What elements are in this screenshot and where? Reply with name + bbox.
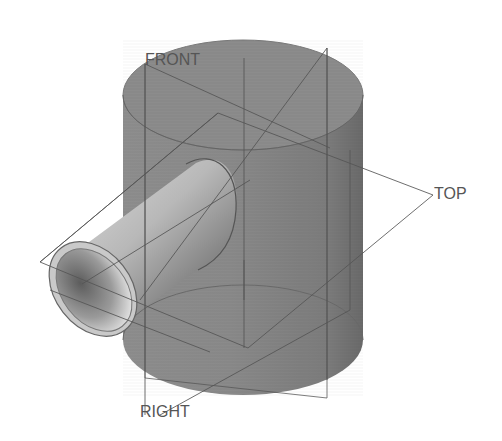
front-plane-label[interactable]: FRONT (145, 51, 200, 69)
cad-viewport[interactable] (0, 0, 502, 441)
right-plane-label[interactable]: RIGHT (140, 403, 190, 421)
top-plane-label[interactable]: TOP (434, 185, 467, 203)
